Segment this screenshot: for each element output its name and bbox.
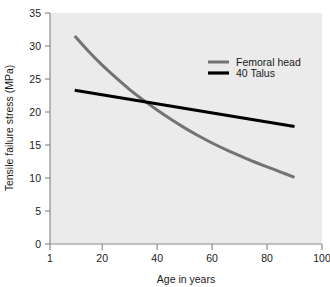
x-tick-label: 20: [96, 252, 108, 264]
chart-canvas: 05101520253035 120406080100 Age in years…: [0, 0, 330, 287]
x-axis-ticks: 120406080100: [47, 244, 330, 264]
x-tick-label: 100: [313, 252, 330, 264]
y-tick-label: 25: [29, 73, 41, 85]
x-tick-label: 40: [151, 252, 163, 264]
x-axis-title: Age in years: [157, 273, 215, 285]
y-tick-label: 30: [29, 40, 41, 52]
chart-figure: 05101520253035 120406080100 Age in years…: [0, 0, 330, 287]
y-tick-label: 35: [29, 7, 41, 19]
y-tick-label: 0: [35, 238, 41, 250]
y-tick-label: 15: [29, 139, 41, 151]
y-axis-ticks: 05101520253035: [29, 7, 50, 250]
x-tick-label: 60: [206, 252, 218, 264]
y-tick-label: 20: [29, 106, 41, 118]
y-tick-label: 10: [29, 172, 41, 184]
x-tick-label: 80: [261, 252, 273, 264]
x-tick-label: 1: [47, 252, 53, 264]
y-tick-label: 5: [35, 205, 41, 217]
legend-label: 40 Talus: [236, 67, 275, 79]
y-axis-title: Tensile failure stress (MPa): [3, 65, 15, 192]
